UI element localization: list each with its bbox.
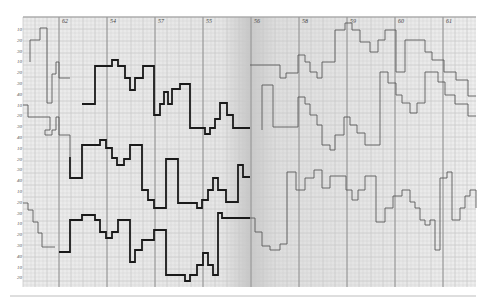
- y-tick-label: 30: [2, 211, 22, 217]
- y-tick-label: 10: [2, 189, 22, 195]
- y-tick-label: 20: [2, 113, 22, 119]
- y-tick-label: 20: [2, 70, 22, 76]
- y-tick-label: 20: [2, 275, 22, 281]
- y-tick-label: 30: [2, 167, 22, 173]
- y-tick-label: 10: [2, 265, 22, 271]
- y-tick-label: 10: [2, 103, 22, 109]
- y-tick-label: 30: [2, 81, 22, 87]
- graph-paper-chart: 625457555658596061 102030102030401020304…: [0, 0, 490, 303]
- y-tick-label: 10: [2, 221, 22, 227]
- y-tick-label: 10: [2, 27, 22, 33]
- y-tick-label: 40: [2, 92, 22, 98]
- y-tick-label: 40: [2, 254, 22, 260]
- x-tick-label: 58: [302, 18, 308, 24]
- y-tick-label: 20: [2, 200, 22, 206]
- x-tick-label: 57: [158, 18, 164, 24]
- y-tick-label: 30: [2, 124, 22, 130]
- y-tick-label: 30: [2, 49, 22, 55]
- y-tick-label: 40: [2, 135, 22, 141]
- x-tick-label: 60: [398, 18, 404, 24]
- x-tick-label: 59: [350, 18, 356, 24]
- x-tick-label: 56: [254, 18, 260, 24]
- x-tick-label: 62: [62, 18, 68, 24]
- y-tick-label: 20: [2, 38, 22, 44]
- y-tick-label: 40: [2, 178, 22, 184]
- y-tick-label: 10: [2, 59, 22, 65]
- y-tick-label: 20: [2, 232, 22, 238]
- chart-canvas: [0, 0, 490, 303]
- y-tick-label: 10: [2, 146, 22, 152]
- y-tick-label: 30: [2, 243, 22, 249]
- x-tick-label: 55: [206, 18, 212, 24]
- x-tick-label: 54: [110, 18, 116, 24]
- x-tick-label: 61: [446, 18, 452, 24]
- y-tick-label: 20: [2, 157, 22, 163]
